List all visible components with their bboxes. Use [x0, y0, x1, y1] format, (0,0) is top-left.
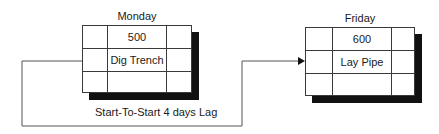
activity-id: 500 [108, 26, 167, 49]
cell [306, 51, 333, 74]
cell [167, 49, 191, 72]
cell [333, 74, 392, 95]
activity-name: Dig Trench [108, 49, 167, 72]
activity-id: 600 [333, 28, 392, 51]
cell [83, 26, 108, 49]
predecessor-day-label: Monday [82, 10, 192, 22]
cell [392, 28, 414, 51]
cell [306, 74, 333, 95]
relationship-label: Start-To-Start 4 days Lag [95, 106, 217, 118]
arrowhead-icon [298, 57, 305, 65]
cell [167, 72, 191, 92]
cell [83, 49, 108, 72]
cell [392, 74, 414, 95]
cell [167, 26, 191, 49]
successor-day-label: Friday [305, 12, 415, 24]
activity-name: Lay Pipe [333, 51, 392, 74]
cell [108, 72, 167, 92]
cell [392, 51, 414, 74]
cell [83, 72, 108, 92]
cell [306, 28, 333, 51]
